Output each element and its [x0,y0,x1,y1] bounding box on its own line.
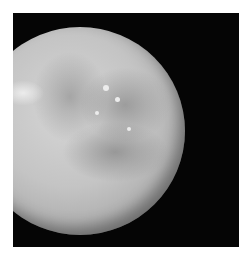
bright-patch [127,127,131,131]
bright-patch [103,85,109,91]
photo-frame [13,13,239,247]
moon-body [13,27,185,235]
bright-patch [115,97,120,102]
bright-patch [95,111,99,115]
